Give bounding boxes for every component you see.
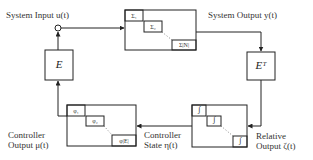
subsystem-1-label: Σ₁ bbox=[125, 13, 143, 19]
controller-output-label-2: Output μ(t) bbox=[8, 140, 49, 150]
system-input-label: System Input u(t) bbox=[6, 10, 69, 20]
controller-sub-2-label: φ₂ bbox=[86, 118, 104, 124]
controller-sub-1-label: φ₁ bbox=[67, 108, 85, 114]
relative-output-label-1: Relative bbox=[256, 131, 286, 141]
controller-output-label-1: Controller bbox=[8, 130, 45, 140]
system-output-label: System Output y(t) bbox=[208, 10, 277, 20]
subsystem-n-label: Σ|N| bbox=[172, 42, 196, 48]
controller-sub-n-label: φ|E| bbox=[112, 138, 136, 144]
input-map-label: E bbox=[45, 58, 73, 70]
controller-state-label-2: State η(t) bbox=[144, 140, 177, 150]
input-junction bbox=[55, 25, 61, 31]
output-map-label: Eᵀ bbox=[247, 59, 275, 71]
relative-output-label-2: Output ζ(t) bbox=[256, 141, 295, 151]
subsystem-2-label: Σ₂ bbox=[144, 24, 162, 30]
integrator-sub-2-label: ∫ bbox=[207, 117, 221, 123]
controller-state-label-1: Controller bbox=[144, 130, 181, 140]
integrator-sub-1-label: ∫ bbox=[192, 107, 206, 113]
integrator-sub-n-label: ∫ bbox=[233, 138, 247, 144]
